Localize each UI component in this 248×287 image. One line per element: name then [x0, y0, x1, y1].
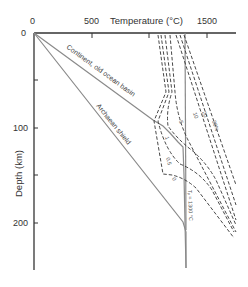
geotherm-solidus-diagram: 0 500 1500 Temperature (°C) 0 100 200 De… — [0, 0, 248, 287]
continent-geotherm — [34, 33, 186, 268]
solidus-label-10: 10 — [192, 111, 200, 119]
x-tick-label-500: 500 — [84, 16, 99, 26]
y-tick-label-100: 100 — [13, 123, 28, 133]
y-tick-label-200: 200 — [13, 218, 28, 228]
solidus-label-20: 20 — [201, 110, 209, 118]
x-axis-title: Temperature (°C) — [110, 15, 183, 26]
solidus-1pct — [165, 35, 236, 225]
y-axis-title: Depth (km) — [13, 150, 24, 197]
solidus-20pct — [180, 35, 236, 205]
solidus-30pct — [184, 35, 236, 185]
continent-label: Continent, old ocean basin — [65, 43, 136, 97]
x-tick-label-1500: 1500 — [197, 16, 217, 26]
solidus-label-0.5: 0.5 — [165, 157, 173, 166]
archaean-label: Archaean shield — [95, 102, 132, 146]
y-tick-label-0: 0 — [21, 28, 26, 38]
solidus-label-30: 30% — [211, 119, 220, 131]
adiabat-label: Tₚ= 1300 °C — [187, 190, 194, 221]
solidus-label-5: 5 — [178, 120, 185, 125]
archaean-geotherm — [34, 33, 186, 268]
solidus-label-0: 0 — [171, 177, 178, 182]
x-tick-label-0: 0 — [30, 16, 35, 26]
solidus-0.5pct — [158, 35, 234, 232]
solidus-label-1: 1 — [164, 136, 171, 141]
